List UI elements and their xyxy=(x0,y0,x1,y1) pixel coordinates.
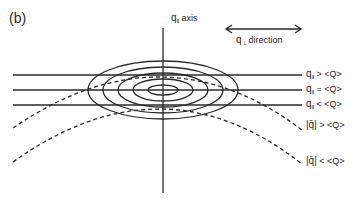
label-relation: > <Q> xyxy=(314,69,342,79)
dashed-curve-q-less xyxy=(13,109,302,164)
label-subscript: II xyxy=(312,104,314,110)
label-symbol: q xyxy=(306,83,312,94)
axis-symbol: q xyxy=(171,12,177,23)
label-q-magnitude-greater: |q̄| > <Q> xyxy=(306,119,345,130)
direction-text: direction xyxy=(249,35,283,45)
direction-symbol: q xyxy=(236,34,242,45)
label-relation: < <Q> xyxy=(317,156,345,166)
label-symbol: q xyxy=(306,68,312,79)
direction-subscript: ⊥ xyxy=(242,40,247,46)
label-relation: < <Q> xyxy=(314,99,342,109)
label-subscript: II xyxy=(312,74,314,80)
label-relation: = <Q> xyxy=(314,84,342,94)
label-q-parallel-greater: qII > <Q> xyxy=(306,68,342,79)
panel-label: (b) xyxy=(9,10,26,26)
q-parallel-axis-label: qII axis xyxy=(171,12,197,23)
label-symbol: |q̄| xyxy=(306,119,317,130)
axis-text: axis xyxy=(181,13,197,23)
axis-subscript: II xyxy=(177,18,179,24)
label-q-parallel-less: qII < <Q> xyxy=(306,98,342,109)
label-q-parallel-equal: qII = <Q> xyxy=(306,83,342,94)
q-perp-direction-label: q⊥ direction xyxy=(236,34,283,45)
label-symbol: |q̄| xyxy=(306,155,317,166)
label-symbol: q xyxy=(306,98,312,109)
label-relation: > <Q> xyxy=(317,120,345,130)
label-q-magnitude-less: |q̄| < <Q> xyxy=(306,155,345,166)
label-subscript: II xyxy=(312,89,314,95)
